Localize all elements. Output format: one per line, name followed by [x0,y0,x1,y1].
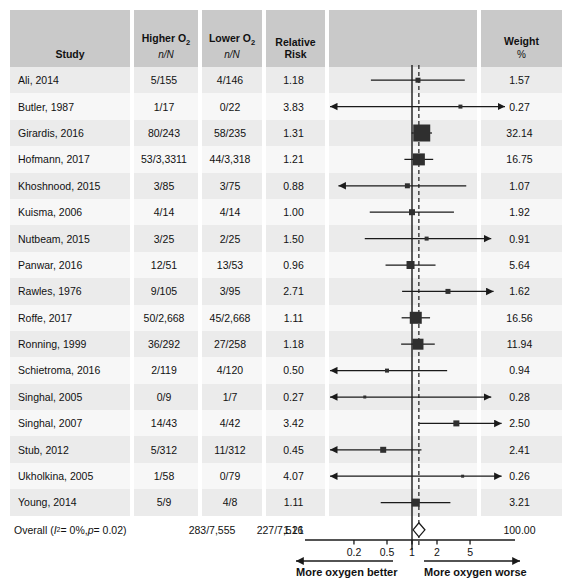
overall-weight-value: 100.00 [477,516,562,544]
cell-lower-o2: 0/22 [198,93,262,119]
axis-tick-label-5: 5 [467,546,473,558]
cell-study: Ronning, 1999 [10,331,130,357]
cell-weight: 3.21 [477,489,562,515]
table-row: Ali, 20145/1554/1461.181.57 [10,67,562,93]
header-lower-o2-label: Lower O2 n/N [209,32,255,60]
header-higher-o2-text: Higher O [142,32,186,44]
cell-weight: 16.56 [477,305,562,331]
header-weight-label: Weight % [504,35,539,60]
table-row: Stub, 20125/31211/3120.452.41 [10,436,562,462]
overall-label: Overall (I2 = 0%, p = 0.02) [10,516,189,544]
table-body: Ali, 20145/1554/1461.181.57Butler, 19871… [10,67,562,516]
row-stripe [329,67,477,93]
row-stripe [329,384,477,410]
cell-relative-risk: 1.18 [262,67,325,93]
cell-relative-risk: 3.42 [262,410,325,436]
header-lower-o2: Lower O2 n/N [202,10,262,67]
cell-weight: 5.64 [477,252,562,278]
cell-lower-o2: 44/3,318 [198,146,262,172]
cell-lower-o2: 11/312 [198,436,262,462]
table-row: Roffe, 201750/2,66845/2,6681.1116.56 [10,305,562,331]
cell-lower-o2: 3/95 [198,278,262,304]
cell-higher-o2: 50/2,668 [130,305,198,331]
cell-weight: 1.07 [477,173,562,199]
header-higher-o2-label: Higher O2 n/N [142,32,191,60]
overall-higher-value: 283/7,555 [176,516,248,544]
cell-weight: 0.26 [477,463,562,489]
cell-relative-risk: 0.88 [262,173,325,199]
header-weight-line2: % [517,49,526,60]
cell-weight: 0.94 [477,357,562,383]
cell-lower-o2: 4/8 [198,489,262,515]
row-stripe [329,331,477,357]
cell-study: Singhal, 2005 [10,384,130,410]
table-row: Khoshnood, 20153/853/750.881.07 [10,173,562,199]
cell-higher-o2: 36/292 [130,331,198,357]
cell-study: Stub, 2012 [10,436,130,462]
cell-relative-risk: 1.31 [262,120,325,146]
axis-tick-label-0.5: 0.5 [380,546,395,558]
cell-study: Khoshnood, 2015 [10,173,130,199]
cell-higher-o2: 4/14 [130,199,198,225]
cell-lower-o2: 0/79 [198,463,262,489]
cell-higher-o2: 5/155 [130,67,198,93]
overall-label-prefix: Overall ( [14,524,54,536]
cell-relative-risk: 1.21 [262,146,325,172]
cell-relative-risk: 0.50 [262,357,325,383]
cell-study: Butler, 1987 [10,93,130,119]
header-lower-o2-text: Lower O [209,32,251,44]
cell-weight: 2.41 [477,436,562,462]
row-stripe [329,278,477,304]
cell-higher-o2: 2/119 [130,357,198,383]
axis-label-right: More oxygen worse [424,566,527,578]
cell-lower-o2: 58/235 [198,120,262,146]
row-stripe [329,357,477,383]
row-stripe [329,410,477,436]
table-row: Singhal, 200714/434/423.422.50 [10,410,562,436]
cell-lower-o2: 45/2,668 [198,305,262,331]
cell-higher-o2: 5/312 [130,436,198,462]
cell-higher-o2: 12/51 [130,252,198,278]
cell-weight: 2.50 [477,410,562,436]
cell-higher-o2: 14/43 [130,410,198,436]
header-weight-line1: Weight [504,35,539,47]
row-stripe [329,436,477,462]
cell-study: Rawles, 1976 [10,278,130,304]
header-lower-o2-subscript: 2 [251,38,255,47]
cell-lower-o2: 27/258 [198,331,262,357]
cell-higher-o2: 1/17 [130,93,198,119]
header-relative-risk-label: Relative Risk [275,36,315,60]
table-row: Nutbeam, 20153/252/251.500.91 [10,225,562,251]
cell-weight: 0.28 [477,384,562,410]
cell-study: Ali, 2014 [10,67,130,93]
cell-relative-risk: 3.83 [262,93,325,119]
cell-higher-o2: 3/85 [130,173,198,199]
header-relative-risk-line2: Risk [284,48,306,60]
cell-lower-o2: 2/25 [198,225,262,251]
table-row: Schietroma, 20162/1194/1200.500.94 [10,357,562,383]
cell-higher-o2: 0/9 [130,384,198,410]
cell-weight: 11.94 [477,331,562,357]
table-row: Girardis, 201680/24358/2351.3132.14 [10,120,562,146]
table-row: Singhal, 20050/91/70.270.28 [10,384,562,410]
cell-lower-o2: 4/120 [198,357,262,383]
cell-weight: 0.91 [477,225,562,251]
cell-lower-o2: 4/146 [198,67,262,93]
cell-higher-o2: 1/58 [130,463,198,489]
header-higher-o2: Higher O2 n/N [134,10,198,67]
table-row: Butler, 19871/170/223.830.27 [10,93,562,119]
row-stripe [329,252,477,278]
header-higher-o2-subscript: 2 [186,38,190,47]
cell-lower-o2: 4/14 [198,199,262,225]
axis-tick-label-0.2: 0.2 [347,546,362,558]
row-stripe [329,199,477,225]
table-row: Kuisma, 20064/144/141.001.92 [10,199,562,225]
table-row: Ukholkina, 20051/580/794.070.26 [10,463,562,489]
cell-relative-risk: 0.45 [262,436,325,462]
row-stripe [329,120,477,146]
cell-lower-o2: 1/7 [198,384,262,410]
cell-weight: 1.62 [477,278,562,304]
row-stripe [329,225,477,251]
axis-tick-label-1: 1 [409,546,415,558]
cell-study: Roffe, 2017 [10,305,130,331]
